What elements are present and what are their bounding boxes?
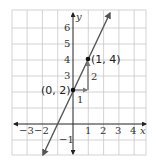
x-axis-label: x <box>140 125 146 136</box>
x-tick-labels: −3 −2 1 2 3 4 <box>19 125 136 136</box>
point-label-0-2: (0, 2) <box>41 84 71 97</box>
svg-text:−2: −2 <box>34 125 49 136</box>
y-axis-label: y <box>75 11 82 22</box>
svg-text:1: 1 <box>85 125 91 136</box>
svg-text:4: 4 <box>130 125 136 136</box>
point-1-4 <box>86 57 91 62</box>
run-label: 1 <box>77 94 83 105</box>
svg-text:3: 3 <box>64 70 70 81</box>
point-label-1-4: (1, 4) <box>91 53 121 66</box>
point-0-2 <box>71 88 76 93</box>
rise-label: 2 <box>91 71 97 82</box>
coordinate-plane: −3 −2 1 2 3 4 x 6 5 4 3 −1 y (0, 2) (1, … <box>0 0 156 166</box>
svg-text:−1: −1 <box>59 134 74 145</box>
svg-text:4: 4 <box>64 54 70 65</box>
svg-text:3: 3 <box>115 125 121 136</box>
svg-text:5: 5 <box>64 38 70 49</box>
svg-text:6: 6 <box>64 22 70 33</box>
svg-text:−3: −3 <box>19 125 34 136</box>
svg-text:2: 2 <box>100 125 106 136</box>
